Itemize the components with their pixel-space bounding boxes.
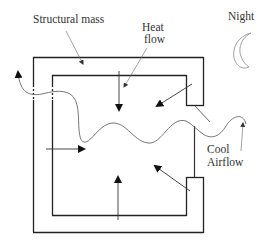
cool-airflow-label-line1: Cool: [207, 143, 229, 155]
diagram-canvas: [0, 0, 267, 248]
heat-flow-leader: [124, 48, 147, 87]
night-label: Night: [228, 10, 254, 22]
crescent-moon-icon: [234, 33, 251, 68]
top-pier-leader: [195, 106, 210, 122]
heat-flow-label-line2: flow: [144, 33, 165, 45]
structural-mass-leader: [66, 31, 83, 64]
outer-wall: [33, 57, 204, 233]
structural-mass-label: Structural mass: [33, 13, 104, 25]
cool-airflow-leader: [241, 123, 243, 151]
cool-airflow-label-line2: Airflow: [207, 156, 243, 168]
heat-flow-label-line1: Heat: [142, 21, 164, 33]
heat-arrow-bottom-right: [155, 166, 190, 191]
